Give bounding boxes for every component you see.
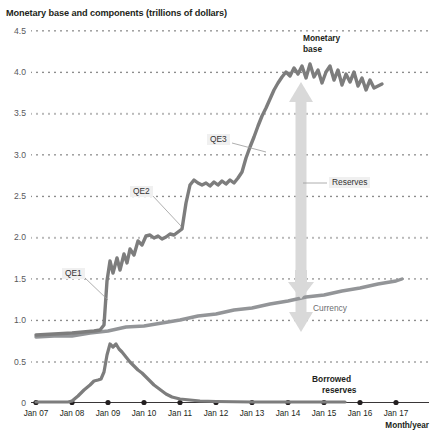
currency-pointer-arrow [288,270,314,299]
annotation-currency: Currency [313,303,347,313]
annotation-monetary-base-line2: base [303,44,322,55]
chart-container: Monetary base and components (trillions … [0,0,435,442]
qe1-leader-line [84,277,108,300]
annotation-qe3: QE3 [207,134,230,145]
series-borrowed-reserves [36,344,345,402]
annotation-qe2: QE2 [130,186,153,197]
series-currency [36,279,402,337]
annotation-monetary-base-line1: Monetary [303,33,340,44]
annotation-reserves: Reserves [329,177,370,188]
annotation-borrowed-line1: Borrowed [312,374,351,385]
annotation-qe1: QE1 [62,268,85,279]
plot-area [0,0,435,442]
qe2-leader-line [152,195,181,226]
annotation-borrowed-line2: reserves [322,385,356,396]
